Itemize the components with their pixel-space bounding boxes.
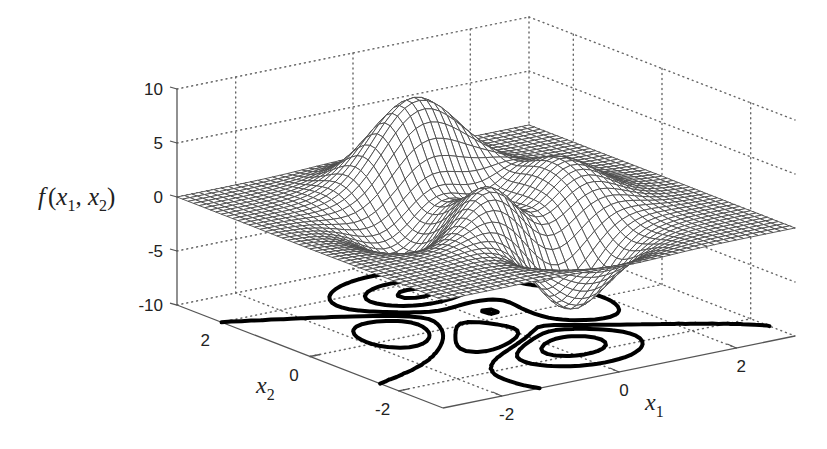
- z-tick: [170, 195, 177, 197]
- z-tick: [170, 249, 177, 251]
- surface-mesh: [177, 97, 795, 309]
- x1-tick-label: 2: [737, 357, 746, 376]
- surface-plot: 1050-5-1020-2-202 f(x1, x2) x2 x1: [0, 0, 827, 449]
- z-tick-label: -10: [138, 296, 163, 315]
- grid-line: [177, 71, 529, 143]
- z-tick-label: 5: [154, 134, 163, 153]
- z-tick-label: -5: [148, 242, 163, 261]
- z-tick: [170, 141, 177, 143]
- x2-axis-label: x2: [255, 372, 275, 403]
- z-axis-label: f(x1, x2): [38, 183, 115, 214]
- z-tick: [170, 303, 177, 305]
- z-tick-label: 0: [154, 188, 163, 207]
- x2-tick-label: 0: [289, 366, 298, 385]
- x1-tick-label: 0: [619, 381, 628, 400]
- x1-tick-label: -2: [499, 405, 514, 424]
- x2-tick-label: -2: [375, 400, 390, 419]
- z-tick: [170, 87, 177, 89]
- x1-tick: [727, 344, 736, 348]
- x1-tick: [493, 392, 502, 396]
- z-tick-label: 10: [144, 80, 163, 99]
- x2-tick-label: 2: [201, 331, 210, 350]
- x1-tick: [610, 368, 619, 372]
- x1-axis-label: x1: [644, 389, 664, 420]
- grid-line: [310, 285, 662, 357]
